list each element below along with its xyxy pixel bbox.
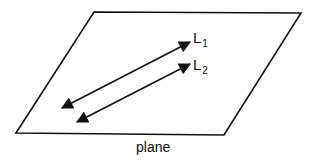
label-l2: L2: [193, 57, 207, 73]
label-l1-main: L: [193, 29, 201, 46]
line-l2: [77, 64, 190, 122]
label-l1: L1: [193, 30, 207, 46]
label-l2-main: L: [193, 56, 201, 73]
plane-parallelogram: [16, 12, 301, 135]
label-l2-subscript: 2: [202, 65, 208, 76]
plane-label: plane: [136, 140, 170, 154]
label-l1-subscript: 1: [202, 38, 208, 49]
line-l1: [62, 42, 190, 108]
